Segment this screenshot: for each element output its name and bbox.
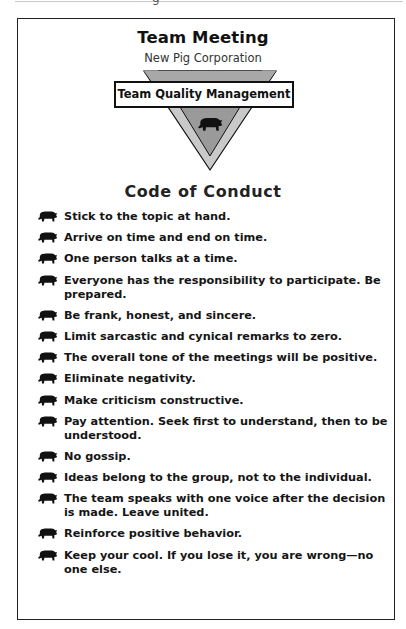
list-item: Limit sarcastic and cynical remarks to z…	[36, 330, 391, 344]
rule-text: Make criticism constructive.	[64, 394, 244, 407]
section-heading: Code of Conduct	[0, 182, 406, 201]
list-item: Everyone has the responsibility to parti…	[36, 274, 391, 302]
rule-text: The overall tone of the meetings will be…	[64, 351, 377, 364]
rule-text: Reinforce positive behavior.	[64, 527, 242, 540]
list-item: Be frank, honest, and sincere.	[36, 309, 391, 323]
list-item: One person talks at a time.	[36, 252, 391, 266]
pig-icon	[38, 395, 58, 407]
rule-text: Eliminate negativity.	[64, 372, 196, 385]
pig-icon	[38, 550, 58, 562]
logo-label: Team Quality Management	[115, 82, 293, 107]
page-top-rule	[15, 1, 403, 2]
rule-text: The team speaks with one voice after the…	[64, 492, 385, 519]
list-item: No gossip.	[36, 450, 391, 464]
rule-text: Stick to the topic at hand.	[64, 210, 230, 223]
pig-icon	[38, 472, 58, 484]
team-quality-logo: Team Quality Management	[112, 68, 296, 176]
list-item: Arrive on time and end on time.	[36, 231, 391, 245]
code-of-conduct-list: Stick to the topic at hand. Arrive on ti…	[36, 210, 391, 584]
list-item: Reinforce positive behavior.	[36, 527, 391, 541]
pig-icon	[38, 416, 58, 428]
list-item: Make criticism constructive.	[36, 394, 391, 408]
pig-icon	[38, 275, 58, 287]
list-item: Stick to the topic at hand.	[36, 210, 391, 224]
list-item: Keep your cool. If you lose it, you are …	[36, 549, 391, 577]
rule-text: Arrive on time and end on time.	[64, 231, 267, 244]
list-item: Pay attention. Seek first to understand,…	[36, 415, 391, 443]
document-subtitle: New Pig Corporation	[0, 51, 406, 65]
list-item: The overall tone of the meetings will be…	[36, 351, 391, 365]
pig-icon	[38, 493, 58, 505]
rule-text: Keep your cool. If you lose it, you are …	[64, 549, 373, 576]
pig-icon	[38, 211, 58, 223]
cutoff-heading-fragment: g	[152, 0, 160, 5]
rule-text: One person talks at a time.	[64, 252, 238, 265]
pig-icon	[38, 352, 58, 364]
document-title: Team Meeting	[0, 28, 406, 47]
rule-text: Pay attention. Seek first to understand,…	[64, 415, 387, 442]
pig-icon	[38, 528, 58, 540]
pig-icon	[38, 451, 58, 463]
rule-text: Everyone has the responsibility to parti…	[64, 274, 381, 301]
rule-text: No gossip.	[64, 450, 131, 463]
rule-text: Ideas belong to the group, not to the in…	[64, 471, 372, 484]
pig-icon	[38, 253, 58, 265]
pig-icon	[38, 331, 58, 343]
rule-text: Limit sarcastic and cynical remarks to z…	[64, 330, 342, 343]
pig-icon	[38, 310, 58, 322]
list-item: Ideas belong to the group, not to the in…	[36, 471, 391, 485]
list-item: Eliminate negativity.	[36, 372, 391, 386]
list-item: The team speaks with one voice after the…	[36, 492, 391, 520]
pig-icon	[38, 373, 58, 385]
pig-icon	[38, 232, 58, 244]
rule-text: Be frank, honest, and sincere.	[64, 309, 256, 322]
